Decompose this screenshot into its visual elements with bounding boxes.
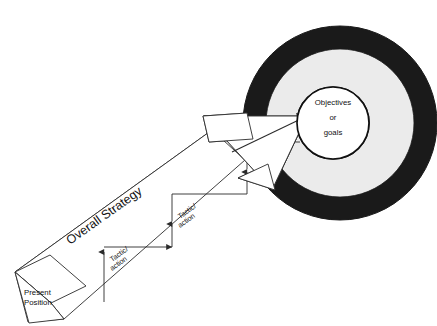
- diagram-canvas: Overall Strategy Present Position Tacti: [0, 0, 437, 326]
- strategy-diagram: Overall Strategy Present Position Tacti: [0, 0, 437, 326]
- present-position-label-line1: Present: [24, 288, 52, 297]
- arrow-upper-barb-front: [203, 113, 253, 142]
- target-label-line2: or: [330, 113, 337, 122]
- target-inner-group: Objectives or goals: [297, 87, 369, 159]
- target-label-line1: Objectives: [315, 98, 352, 107]
- target-label-line3: goals: [324, 128, 343, 137]
- present-position-label-line2: Position: [24, 298, 52, 307]
